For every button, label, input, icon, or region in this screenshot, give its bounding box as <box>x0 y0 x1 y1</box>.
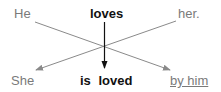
word-her: her. <box>178 6 200 21</box>
word-is-loved: is loved <box>80 73 132 88</box>
word-he: He <box>14 6 31 21</box>
word-loves: loves <box>90 6 123 21</box>
passive-voice-diagram: He loves her. She is loved by him <box>0 0 221 92</box>
word-she: She <box>11 73 34 88</box>
arrow-her-to-she <box>36 21 176 70</box>
word-by-him: by him <box>170 73 208 88</box>
